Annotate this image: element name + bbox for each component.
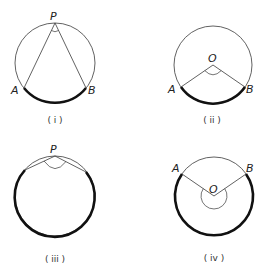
- angle-mark-o-ii: [205, 71, 221, 75]
- radius-ob-iv: [214, 174, 246, 196]
- point-label-o: O: [208, 52, 217, 65]
- chord-pb-iii: [55, 156, 86, 172]
- figure-i: P A B ( i ): [10, 10, 96, 125]
- figure-iv: O A B ( iv ): [171, 157, 254, 263]
- point-label-b: B: [246, 162, 254, 175]
- caption-iii: ( iii ): [45, 254, 65, 264]
- circle-theorem-diagram: P A B ( i ) O A B ( ii ) P ( iii ) O A B…: [0, 0, 265, 273]
- highlighted-arc-ab-ii: [181, 87, 245, 104]
- radius-ob-ii: [213, 65, 245, 87]
- highlighted-major-arc-iii: [15, 170, 95, 237]
- chord-pa-iii: [25, 156, 55, 170]
- figure-ii: O A B ( ii ): [167, 26, 254, 125]
- point-label-a: A: [171, 162, 180, 175]
- point-label-b: B: [88, 84, 96, 97]
- radius-oa-ii: [181, 65, 213, 87]
- caption-i: ( i ): [47, 115, 62, 125]
- figure-iii: P ( iii ): [15, 143, 95, 264]
- point-label-p: P: [50, 143, 57, 156]
- point-label-o: O: [209, 183, 218, 196]
- angle-mark-p-iii: [44, 161, 66, 169]
- highlighted-arc-ab-i: [24, 88, 86, 103]
- point-label-b: B: [246, 83, 254, 96]
- angle-mark-p-i: [52, 31, 59, 32]
- caption-iv: ( iv ): [204, 253, 225, 263]
- point-label-p: P: [50, 10, 57, 23]
- point-label-a: A: [167, 83, 176, 96]
- point-label-a: A: [10, 84, 19, 97]
- caption-ii: ( ii ): [203, 115, 221, 125]
